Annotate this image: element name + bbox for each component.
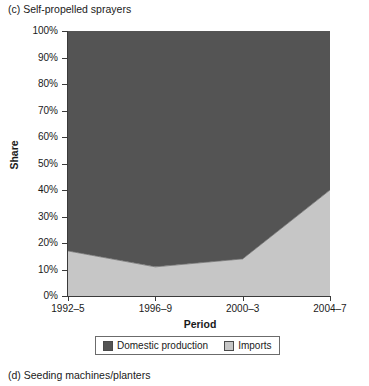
y-tick-label: 100%	[32, 25, 58, 36]
x-tick-mark	[243, 297, 244, 301]
x-tick-label: 2000–3	[213, 303, 273, 314]
legend-label-imports: Imports	[238, 340, 271, 351]
panel-title-d: (d) Seeding machines/planters	[8, 369, 150, 381]
y-tick-label: 20%	[38, 237, 58, 248]
y-tick-label: 80%	[38, 78, 58, 89]
y-tick-label: 90%	[38, 52, 58, 63]
y-tick-mark	[62, 296, 67, 297]
x-tick-label: 1996–9	[125, 303, 185, 314]
y-tick-mark	[62, 270, 67, 271]
y-tick-mark	[62, 217, 67, 218]
y-tick-label: 10%	[38, 264, 58, 275]
x-axis-line	[67, 296, 331, 297]
legend-item-imports: Imports	[224, 340, 271, 351]
y-tick-mark	[62, 84, 67, 85]
area-series-svg	[68, 31, 330, 296]
y-tick-mark	[62, 190, 67, 191]
legend-label-domestic-production: Domestic production	[117, 340, 208, 351]
x-tick-label: 2004–7	[300, 303, 360, 314]
plot-area	[68, 31, 330, 296]
x-tick-mark	[330, 297, 331, 301]
y-tick-mark	[62, 243, 67, 244]
panel-title-c: (c) Self-propelled sprayers	[8, 3, 131, 15]
y-tick-label: 60%	[38, 131, 58, 142]
y-tick-mark	[62, 111, 67, 112]
x-axis-label: Period	[69, 318, 331, 330]
x-tick-mark	[155, 297, 156, 301]
y-tick-label: 40%	[38, 184, 58, 195]
y-tick-mark	[62, 164, 67, 165]
stacked-area-chart: 0%10%20%30%40%50%60%70%80%90%100% 1992–5…	[0, 18, 369, 318]
y-tick-mark	[62, 31, 67, 32]
y-tick-mark	[62, 58, 67, 59]
y-tick-label: 50%	[38, 158, 58, 169]
x-tick-label: 1992–5	[38, 303, 98, 314]
chart-legend: Domestic production Imports	[95, 336, 280, 355]
y-tick-label: 70%	[38, 105, 58, 116]
legend-item-domestic-production: Domestic production	[103, 340, 208, 351]
y-axis-line	[67, 31, 68, 297]
x-tick-mark	[68, 297, 69, 301]
legend-swatch-icon-domestic	[103, 341, 113, 351]
y-tick-label: 30%	[38, 211, 58, 222]
y-tick-mark	[62, 137, 67, 138]
y-tick-label: 0%	[44, 290, 58, 301]
legend-swatch-icon-imports	[224, 341, 234, 351]
y-axis-label: Share	[8, 125, 20, 185]
